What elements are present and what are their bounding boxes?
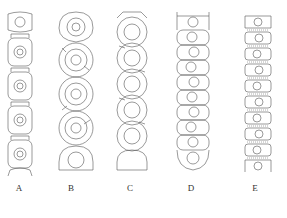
stem-d-drawing <box>174 0 212 178</box>
panel-label-c: C <box>120 183 140 193</box>
stem-c-drawing <box>113 0 151 178</box>
stem-a-drawing <box>4 0 36 178</box>
panel-label-b: B <box>61 183 81 193</box>
panel-label-d: D <box>181 183 201 193</box>
stem-e-drawing <box>242 0 274 178</box>
stem-b-drawing <box>56 0 96 178</box>
panel-label-a: A <box>9 183 29 193</box>
panel-label-e: E <box>245 183 265 193</box>
